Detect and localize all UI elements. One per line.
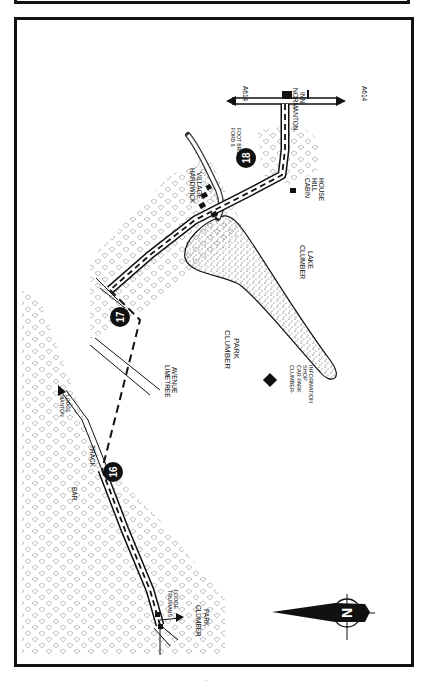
trumans-lodge-building bbox=[155, 612, 160, 617]
cabin-hill-house-building bbox=[290, 188, 296, 193]
label-clumber-park: CLUMBERPARK bbox=[223, 330, 241, 369]
label-clumber-lake: CLUMBERLAKE bbox=[299, 245, 314, 279]
north-arrow-icon: N bbox=[272, 594, 375, 640]
arrow-icon bbox=[336, 96, 346, 106]
label-a614-north: A614 bbox=[242, 86, 249, 102]
svg-text:17: 17 bbox=[115, 311, 126, 323]
page-mark: · bbox=[205, 676, 208, 685]
svg-text:N: N bbox=[339, 608, 355, 618]
route-map: 18 17 16 NORMANTONINN A614 A614 CABINHIL… bbox=[0, 0, 424, 690]
stage-marker-16[interactable]: 16 bbox=[103, 462, 123, 482]
label-bar: BAR bbox=[71, 487, 78, 501]
label-normanton-inn: NORMANTONINN bbox=[292, 88, 306, 131]
woodland-south-west bbox=[22, 290, 225, 655]
label-car-park: CLUMBER-CAR PARKSHOPINFORMATION bbox=[289, 365, 314, 403]
stage-marker-17[interactable]: 17 bbox=[110, 307, 130, 327]
svg-text:16: 16 bbox=[108, 466, 119, 478]
label-hardwick-village: HARDWICKVILLAGE bbox=[189, 168, 203, 204]
label-track: TRACK bbox=[89, 445, 96, 468]
label-limetree-avenue: LIMETREEAVENUE bbox=[164, 365, 178, 398]
label-cabin-hill-house: CABINHILLHOUSE bbox=[304, 178, 325, 202]
label-ford-footbridge: FORD &FOOT BRIDGE bbox=[230, 128, 242, 163]
arrow-icon bbox=[226, 96, 236, 106]
label-a614-south: A614 bbox=[361, 86, 368, 102]
car-park-building bbox=[263, 373, 277, 387]
normanton-inn-building bbox=[282, 91, 292, 99]
